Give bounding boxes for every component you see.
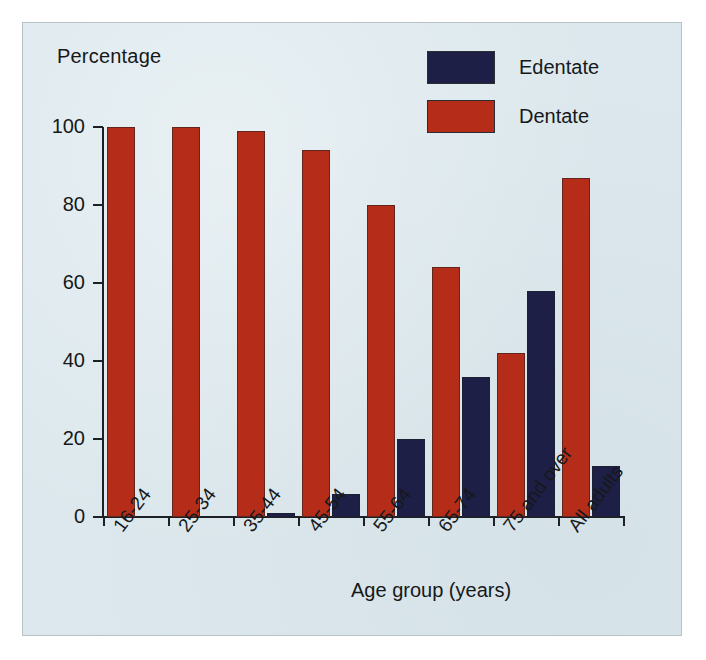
- y-axis-tick: 40: [93, 360, 103, 362]
- bar-dentate-55-64: [367, 205, 395, 517]
- x-axis-tick: [233, 516, 235, 526]
- bar-dentate-65-74: [432, 267, 460, 517]
- x-axis-title: Age group (years): [351, 579, 511, 602]
- x-axis-tick: [558, 516, 560, 526]
- chart-legend: Edentate Dentate: [427, 51, 599, 133]
- x-axis-tick: [493, 516, 495, 526]
- x-axis-tick: [103, 516, 105, 526]
- bar-dentate-45-54: [302, 150, 330, 517]
- y-axis-tick-label: 80: [63, 193, 85, 216]
- x-axis-tick: [623, 516, 625, 526]
- bar-dentate-35-44: [237, 131, 265, 517]
- bar-dentate-16-24: [107, 127, 135, 517]
- y-axis-tick: 100: [93, 126, 103, 128]
- x-axis-tick: [168, 516, 170, 526]
- plot-area: 020406080100 16-2425-3435-4445-5455-6465…: [103, 127, 623, 517]
- y-axis-tick-label: 20: [63, 427, 85, 450]
- y-axis-tick-label: 60: [63, 271, 85, 294]
- legend-label-edentate: Edentate: [519, 56, 599, 79]
- y-axis-line: [102, 127, 104, 517]
- y-axis-tick: 0: [93, 516, 103, 518]
- y-axis-tick-label: 40: [63, 349, 85, 372]
- y-axis-tick: 80: [93, 204, 103, 206]
- legend-label-dentate: Dentate: [519, 105, 589, 128]
- legend-item-edentate: Edentate: [427, 51, 599, 84]
- x-axis-tick: [363, 516, 365, 526]
- bar-dentate-25-34: [172, 127, 200, 517]
- x-axis-tick: [298, 516, 300, 526]
- y-axis-tick-label: 100: [52, 115, 85, 138]
- y-axis-tick: 60: [93, 282, 103, 284]
- y-axis-tick: 20: [93, 438, 103, 440]
- legend-swatch-edentate: [427, 51, 495, 84]
- y-axis-title: Percentage: [57, 45, 161, 68]
- chart-figure: Percentage Edentate Dentate 020406080100…: [22, 22, 682, 636]
- y-axis-tick-label: 0: [74, 505, 85, 528]
- x-axis-tick: [428, 516, 430, 526]
